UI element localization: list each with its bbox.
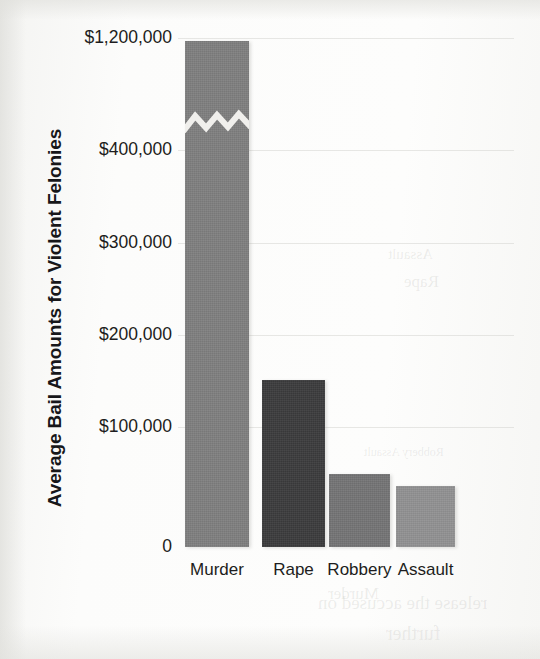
y-axis-tick-label: $100,000	[42, 416, 172, 437]
y-axis-tick-label: $300,000	[42, 232, 172, 253]
gridline	[178, 38, 514, 39]
y-axis-tick-labels: $1,200,000$400,000$300,000$200,000$100,0…	[42, 0, 172, 659]
bar-robbery	[329, 474, 390, 547]
bar-assault	[396, 486, 455, 547]
x-axis-tick-label-assault: Assault	[372, 560, 479, 580]
bar-rape	[262, 380, 325, 547]
y-axis-tick-label: $1,200,000	[42, 27, 172, 48]
bar-murder	[185, 41, 249, 547]
y-axis-tick-label: $400,000	[42, 139, 172, 160]
bar-chart: Average Bail Amounts for Violent Felonie…	[0, 0, 540, 659]
axis-break-zigzag-icon	[185, 105, 249, 139]
y-axis-tick-label: $200,000	[42, 324, 172, 345]
chart-page: AssaultRaperelease the accused onfurther…	[0, 0, 540, 659]
y-axis-tick-label: 0	[42, 536, 172, 557]
